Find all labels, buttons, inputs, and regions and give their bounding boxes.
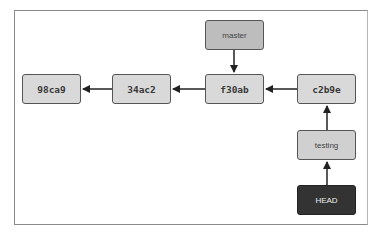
branch-master: master — [205, 20, 264, 50]
head-pointer: HEAD — [297, 185, 356, 215]
commit-label: 34ac2 — [127, 84, 156, 95]
branch-testing: testing — [297, 130, 356, 160]
branch-label: testing — [315, 141, 339, 150]
commit-98ca9: 98ca9 — [22, 74, 81, 104]
commit-label: 98ca9 — [37, 84, 66, 95]
commit-c2b9e: c2b9e — [297, 74, 356, 104]
commit-label: c2b9e — [312, 84, 341, 95]
commit-label: f30ab — [220, 84, 249, 95]
head-label: HEAD — [315, 196, 337, 205]
branch-label: master — [222, 31, 246, 40]
commit-f30ab: f30ab — [205, 74, 264, 104]
commit-34ac2: 34ac2 — [112, 74, 171, 104]
